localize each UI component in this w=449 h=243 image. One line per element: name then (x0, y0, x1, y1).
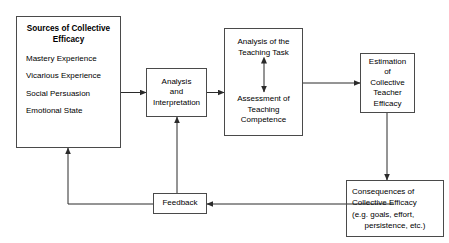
consequences-line-2: Collective Efficacy (352, 197, 438, 208)
node-consequences-of-collective-efficacy: Consequences of Collective Efficacy (e.g… (346, 180, 444, 237)
consequences-line-3: (e.g. goals, effort, (352, 209, 438, 220)
analysis-label: Analysis and Interpretation (153, 77, 200, 109)
teaching-task-label: Analysis of the Teaching Task (237, 37, 289, 58)
diagram-canvas: Sources of Collective Efficacy Mastery E… (0, 0, 449, 243)
sources-item-mastery-experience: Mastery Experience (26, 55, 113, 64)
consequences-line-1: Consequences of (352, 186, 438, 197)
teaching-competence-label: Assessment of Teaching Competence (237, 94, 289, 126)
feedback-label: Feedback (162, 198, 197, 209)
node-estimation-of-collective-teacher-efficacy: Estimation of Collective Teacher Efficac… (360, 53, 415, 113)
consequences-line-4: persistence, etc.) (352, 220, 438, 231)
node-feedback: Feedback (153, 193, 207, 214)
edge-feedback-to-sources (68, 148, 153, 204)
sources-title: Sources of Collective Efficacy (24, 23, 113, 45)
sources-list: Mastery Experience Vicarious Experience … (24, 55, 113, 116)
sources-item-emotional-state: Emotional State (26, 107, 113, 116)
sources-item-vicarious-experience: Vicarious Experience (26, 72, 113, 81)
node-analysis-and-interpretation: Analysis and Interpretation (146, 68, 207, 117)
sources-item-social-persuasion: Social Persuasion (26, 90, 113, 99)
node-sources-of-collective-efficacy: Sources of Collective Efficacy Mastery E… (16, 16, 121, 148)
node-teaching-task-and-competence: Analysis of the Teaching Task Assessment… (224, 28, 303, 136)
estimation-label: Estimation of Collective Teacher Efficac… (369, 57, 406, 110)
